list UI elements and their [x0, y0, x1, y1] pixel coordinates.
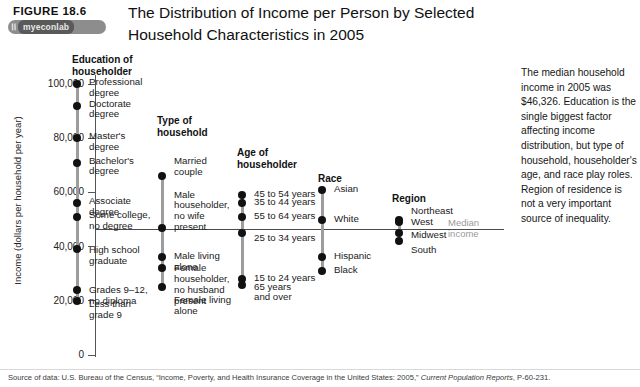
- data-point-label: White: [334, 214, 359, 225]
- group-stem: [76, 84, 79, 301]
- data-point[interactable]: [238, 199, 246, 207]
- data-point-label: 35 to 44 years: [254, 197, 315, 208]
- data-point[interactable]: [158, 253, 166, 261]
- y-tick-label: 100,000: [0, 78, 84, 89]
- data-point-label: Less than grade 9: [89, 299, 131, 321]
- data-point[interactable]: [395, 229, 403, 237]
- data-point-label: High school graduate: [89, 245, 140, 267]
- data-point-label: Male householder, no wife present: [174, 190, 229, 233]
- data-point-label: Bachelor's degree: [89, 156, 134, 178]
- figure-title: The Distribution of Income per Person by…: [128, 2, 528, 46]
- data-point[interactable]: [73, 80, 81, 88]
- chart-plot-area: Income (dollars per household per year) …: [0, 55, 512, 365]
- y-tick-label: 60,000: [0, 186, 84, 197]
- myeconlab-logo: \\ myeconlab: [8, 20, 106, 34]
- data-point-label: Asian: [334, 184, 358, 195]
- data-point[interactable]: [158, 224, 166, 232]
- median-income-label: Median income: [448, 217, 479, 239]
- group-title: Education of householder: [72, 54, 133, 77]
- data-point[interactable]: [395, 218, 403, 226]
- y-tick-label: 0: [0, 349, 84, 360]
- data-point-label: 55 to 64 years: [254, 211, 315, 222]
- data-point[interactable]: [238, 229, 246, 237]
- data-point-label: South: [411, 245, 436, 256]
- y-axis-title: Income (dollars per household per year): [12, 91, 23, 311]
- data-point-label: Hispanic: [334, 251, 371, 262]
- data-point-label: Professional degree: [89, 77, 142, 99]
- data-point-label: Doctorate degree: [89, 99, 131, 121]
- logo-mark: \\: [10, 23, 16, 32]
- data-point[interactable]: [73, 245, 81, 253]
- data-point-label: Married couple: [174, 156, 207, 178]
- y-tick: [88, 355, 95, 356]
- figure-page: FIGURE 18.6 \\ myeconlab The Distributio…: [0, 0, 640, 387]
- logo-wordmark: myeconlab: [18, 20, 74, 34]
- footer-divider: [0, 369, 640, 370]
- data-point[interactable]: [238, 213, 246, 221]
- group-title: Type of household: [157, 115, 208, 138]
- group-title: Region: [392, 193, 426, 205]
- data-point[interactable]: [318, 253, 326, 261]
- data-point[interactable]: [73, 213, 81, 221]
- data-point[interactable]: [318, 216, 326, 224]
- data-point-label: Some college, no degree: [89, 210, 150, 232]
- source-suffix: , P-60-231.: [513, 373, 551, 382]
- y-tick: [88, 192, 95, 193]
- data-point-label: Female living alone: [174, 295, 231, 317]
- data-point[interactable]: [238, 191, 246, 199]
- y-tick-label: 20,000: [0, 295, 84, 306]
- data-point[interactable]: [73, 159, 81, 167]
- data-point[interactable]: [158, 264, 166, 272]
- data-point-label: Master's degree: [89, 131, 125, 153]
- y-tick-label: 40,000: [0, 241, 84, 252]
- source-prefix: Source of data: U.S. Bureau of the Censu…: [8, 373, 421, 382]
- data-point-label: Northeast: [411, 206, 453, 217]
- y-tick-label: 80,000: [0, 132, 84, 143]
- data-point[interactable]: [73, 297, 81, 305]
- group-title: Age of householder: [237, 147, 297, 170]
- data-point[interactable]: [318, 267, 326, 275]
- side-note-text: The median household income in 2005 was …: [521, 66, 637, 227]
- group-stem: [241, 195, 244, 284]
- data-point[interactable]: [158, 283, 166, 291]
- data-point[interactable]: [395, 237, 403, 245]
- data-point[interactable]: [73, 102, 81, 110]
- data-point-label: West: [411, 217, 433, 228]
- data-point[interactable]: [238, 281, 246, 289]
- data-point[interactable]: [318, 186, 326, 194]
- source-note: Source of data: U.S. Bureau of the Censu…: [8, 373, 636, 382]
- figure-number: FIGURE 18.6: [13, 5, 86, 17]
- data-point[interactable]: [73, 286, 81, 294]
- data-point-label: 25 to 34 years: [254, 233, 315, 244]
- data-point-label: 65 years and over: [254, 282, 292, 304]
- source-italic: Current Population Reports: [421, 373, 513, 382]
- data-point[interactable]: [158, 172, 166, 180]
- data-point-label: Black: [334, 265, 358, 276]
- data-point[interactable]: [73, 199, 81, 207]
- data-point-label: Midwest: [411, 230, 447, 241]
